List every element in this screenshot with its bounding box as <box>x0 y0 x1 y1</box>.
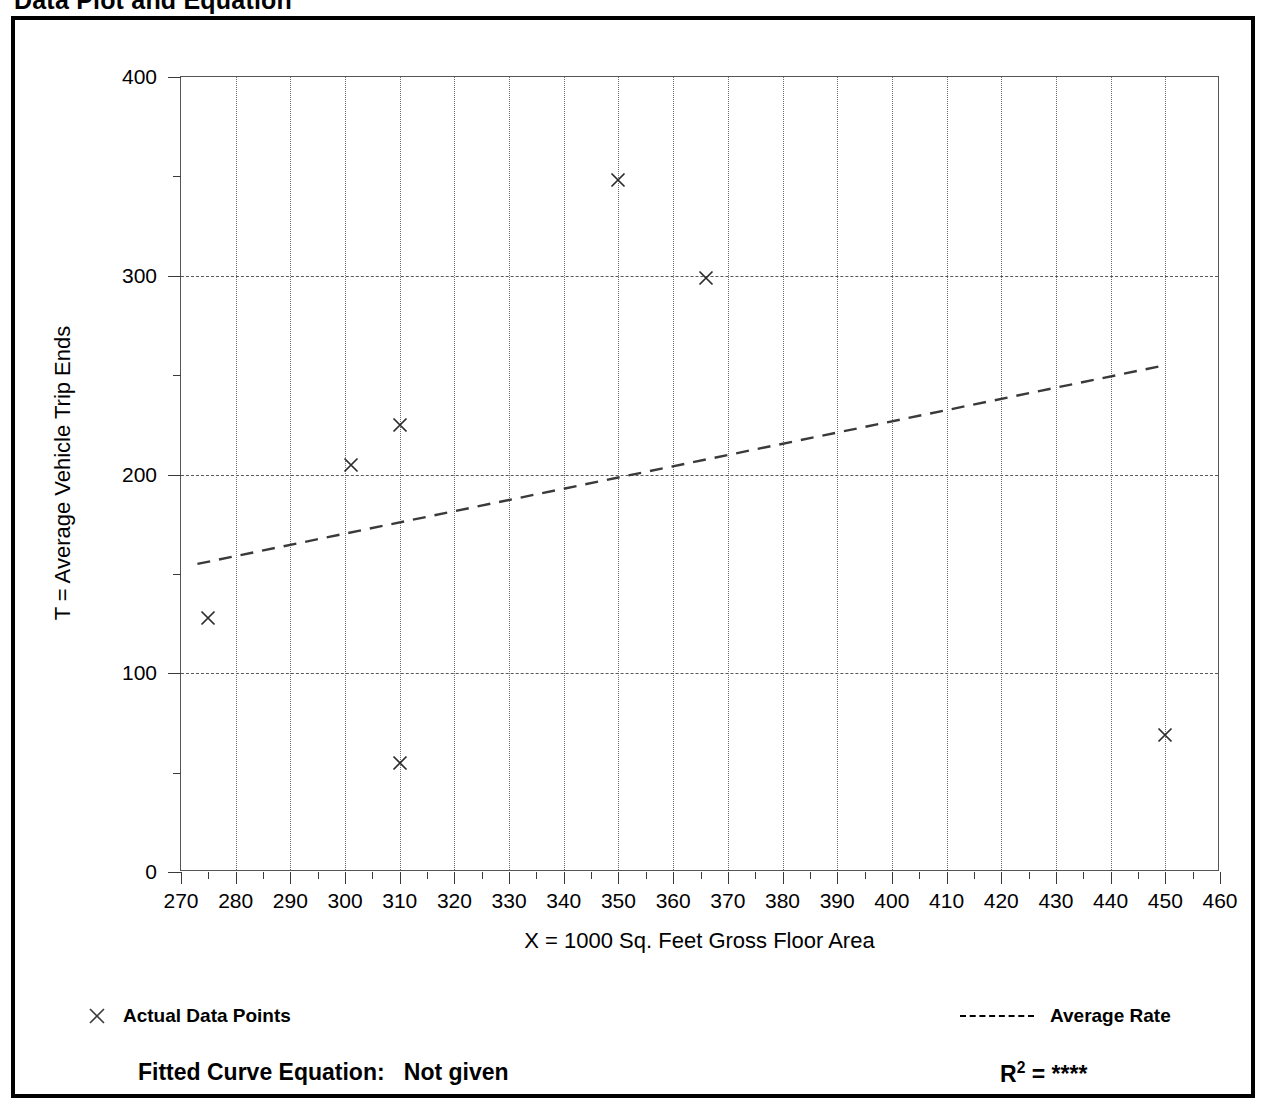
chart-footer: Fitted Curve Equation: Not given R2 = **… <box>15 1055 1259 1099</box>
x-axis-minor-tick <box>263 872 264 879</box>
x-marker-icon <box>87 1006 107 1026</box>
legend-entry-actual-data-points: Actual Data Points <box>87 1005 291 1027</box>
chart-outer-frame: 2702802903003103203303403503603703803904… <box>11 16 1255 1098</box>
page-title: Data Plot and Equation <box>14 0 292 15</box>
x-axis-minor-tick <box>919 872 920 879</box>
x-axis-tick <box>618 872 619 884</box>
r-squared-exponent: 2 <box>1017 1059 1026 1076</box>
x-axis-minor-tick <box>482 872 483 879</box>
x-axis-tick <box>564 872 565 884</box>
x-axis-tick-label: 310 <box>382 889 417 913</box>
y-axis-minor-tick <box>173 574 181 575</box>
y-axis-tick <box>168 276 181 277</box>
x-axis-title: X = 1000 Sq. Feet Gross Floor Area <box>180 928 1219 954</box>
y-axis-title: T = Average Vehicle Trip Ends <box>50 163 76 783</box>
x-axis-tick <box>783 872 784 884</box>
y-axis-tick-label: 0 <box>145 860 157 884</box>
y-axis-tick <box>168 77 181 78</box>
y-axis-tick-label: 400 <box>122 65 157 89</box>
x-axis-tick-label: 450 <box>1148 889 1183 913</box>
x-axis-tick <box>1111 872 1112 884</box>
x-axis-minor-tick <box>810 872 811 879</box>
x-axis-tick <box>290 872 291 884</box>
y-axis-tick-label: 100 <box>122 661 157 685</box>
x-axis-minor-tick <box>427 872 428 879</box>
y-axis-minor-tick <box>173 375 181 376</box>
x-axis-tick-label: 360 <box>656 889 691 913</box>
x-axis-tick <box>1165 872 1166 884</box>
y-axis-minor-tick <box>173 176 181 177</box>
fitted-curve-equation: Fitted Curve Equation: Not given <box>138 1059 509 1086</box>
x-axis-minor-tick <box>536 872 537 879</box>
x-axis-tick-label: 420 <box>984 889 1019 913</box>
y-axis-tick <box>168 475 181 476</box>
x-axis-tick <box>1220 872 1221 884</box>
x-axis-minor-tick <box>865 872 866 879</box>
x-axis-tick-label: 460 <box>1202 889 1237 913</box>
plot-frame: 2702802903003103203303403503603703803904… <box>180 76 1219 871</box>
x-axis-minor-tick <box>372 872 373 879</box>
fitted-curve-equation-value: Not given <box>404 1059 509 1085</box>
y-axis-tick-label: 200 <box>122 463 157 487</box>
x-axis-tick-label: 340 <box>546 889 581 913</box>
x-axis-minor-tick <box>591 872 592 879</box>
x-axis-tick <box>236 872 237 884</box>
x-axis-tick-label: 440 <box>1093 889 1128 913</box>
x-axis-minor-tick <box>318 872 319 879</box>
legend-label-average-rate: Average Rate <box>1050 1005 1171 1027</box>
x-axis-tick <box>1001 872 1002 884</box>
x-axis-tick <box>454 872 455 884</box>
x-axis-minor-tick <box>701 872 702 879</box>
legend-entry-average-rate: Average Rate <box>960 1005 1171 1027</box>
x-axis-minor-tick <box>208 872 209 879</box>
y-axis-tick-label: 300 <box>122 264 157 288</box>
x-axis-tick <box>728 872 729 884</box>
r-squared-value: **** <box>1052 1061 1088 1087</box>
y-axis-tick <box>168 872 181 873</box>
x-axis-tick-label: 350 <box>601 889 636 913</box>
x-axis-tick-label: 410 <box>929 889 964 913</box>
average-rate-trendline <box>181 77 1220 872</box>
dashed-line-icon <box>960 1015 1034 1017</box>
x-axis-tick-label: 400 <box>874 889 909 913</box>
legend-label-actual-data-points: Actual Data Points <box>123 1005 291 1027</box>
x-axis-tick-label: 380 <box>765 889 800 913</box>
x-axis-tick <box>345 872 346 884</box>
x-axis-tick-label: 370 <box>710 889 745 913</box>
x-axis-tick <box>673 872 674 884</box>
r-squared-equals: = <box>1032 1061 1045 1087</box>
x-axis-tick <box>1056 872 1057 884</box>
x-axis-tick <box>947 872 948 884</box>
x-axis-tick-label: 320 <box>437 889 472 913</box>
x-axis-tick-label: 390 <box>820 889 855 913</box>
chart-legend: Actual Data Points Average Rate <box>15 1005 1259 1045</box>
fitted-curve-equation-label: Fitted Curve Equation: <box>138 1059 385 1085</box>
y-axis-tick <box>168 673 181 674</box>
x-axis-tick <box>837 872 838 884</box>
x-axis-tick-label: 270 <box>163 889 198 913</box>
r-squared-label: R <box>1000 1061 1017 1087</box>
x-axis-tick <box>400 872 401 884</box>
r-squared-annotation: R2 = **** <box>1000 1059 1087 1088</box>
x-axis-minor-tick <box>974 872 975 879</box>
x-axis-tick-label: 430 <box>1038 889 1073 913</box>
x-axis-minor-tick <box>1029 872 1030 879</box>
x-axis-tick-label: 290 <box>273 889 308 913</box>
x-axis-minor-tick <box>646 872 647 879</box>
x-axis-tick-label: 300 <box>328 889 363 913</box>
x-axis-tick <box>892 872 893 884</box>
x-axis-minor-tick <box>1083 872 1084 879</box>
x-axis-tick <box>181 872 182 884</box>
y-axis-minor-tick <box>173 773 181 774</box>
chart-area: 2702802903003103203303403503603703803904… <box>15 20 1259 1102</box>
x-axis-minor-tick <box>755 872 756 879</box>
x-axis-minor-tick <box>1193 872 1194 879</box>
x-axis-tick-label: 330 <box>492 889 527 913</box>
x-axis-tick <box>509 872 510 884</box>
x-axis-minor-tick <box>1138 872 1139 879</box>
x-axis-tick-label: 280 <box>218 889 253 913</box>
